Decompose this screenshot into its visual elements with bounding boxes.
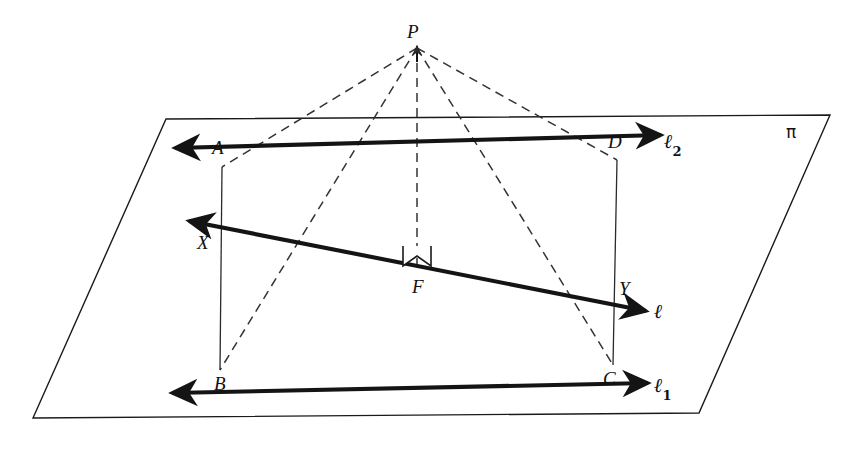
point-label-d: D: [608, 132, 622, 151]
line-label-ell-1: ℓ1: [654, 375, 672, 399]
point-label-b: B: [214, 374, 226, 393]
point-label-c: C: [603, 369, 616, 388]
diagram-canvas: P A B C D F X Y ℓ1 ℓ2 ℓ π: [0, 0, 865, 449]
plane-label-pi: π: [786, 124, 796, 141]
point-label-p: P: [407, 22, 419, 41]
line-label-ell-2: ℓ2: [664, 131, 682, 155]
geometry-figure: [0, 0, 865, 449]
point-label-f: F: [412, 277, 424, 296]
point-label-x: X: [197, 233, 209, 252]
line-label-ell: ℓ: [654, 301, 663, 325]
point-label-y: Y: [619, 279, 630, 298]
point-label-a: A: [212, 138, 224, 157]
